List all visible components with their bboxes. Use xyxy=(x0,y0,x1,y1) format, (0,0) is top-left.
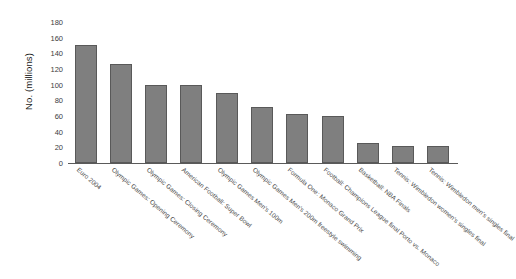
y-axis-tick-label: 180 xyxy=(37,18,68,27)
x-axis-line xyxy=(68,163,458,164)
bar xyxy=(322,116,344,163)
bar xyxy=(110,64,132,163)
y-axis-tick-label: 100 xyxy=(37,80,68,89)
y-axis-title: No. (millions) xyxy=(22,0,36,163)
bar xyxy=(75,45,97,163)
bar xyxy=(216,93,238,164)
x-axis-tick-label: Formula One: Monaco Grand Prix xyxy=(287,166,366,234)
x-axis-labels: Euro 2004Olympic Games: Opening Ceremony… xyxy=(68,166,458,279)
y-axis-tick-label: 160 xyxy=(37,33,68,42)
y-axis-tick-label: 40 xyxy=(37,127,68,136)
x-axis-tick-label: Olympic Games Men's 100m xyxy=(216,166,284,225)
y-axis-tick-label: 80 xyxy=(37,96,68,105)
y-axis-tick-label: 140 xyxy=(37,49,68,58)
bar xyxy=(392,146,414,163)
bar xyxy=(145,85,167,163)
y-axis-tick-label: 20 xyxy=(37,143,68,152)
y-axis-tick-label: 0 xyxy=(37,159,68,168)
bar xyxy=(286,114,308,163)
bar xyxy=(180,85,202,163)
bar xyxy=(251,107,273,163)
x-axis-tick-label: American Football: Super Bowl xyxy=(181,166,254,229)
x-axis-tick-label: Euro 2004 xyxy=(75,166,102,191)
y-axis-tick-label: 120 xyxy=(37,65,68,74)
bar xyxy=(427,146,449,163)
y-axis-tick-label: 60 xyxy=(37,112,68,121)
bar xyxy=(357,143,379,163)
plot-area: 020406080100120140160180 xyxy=(68,22,456,163)
